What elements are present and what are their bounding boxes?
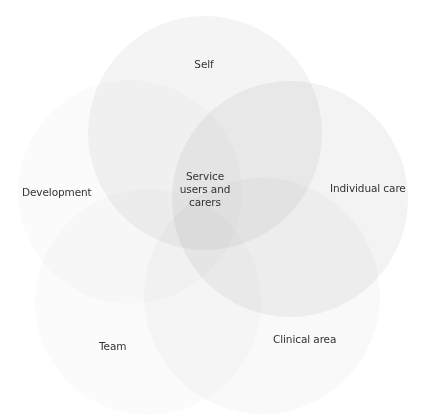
label-development: Development: [22, 186, 92, 199]
center-label: Service users and carers: [175, 170, 235, 209]
center-label-line-1: Service: [175, 170, 235, 183]
label-individual-care: Individual care: [330, 182, 412, 195]
center-label-line-2: users and: [175, 183, 235, 196]
label-self: Self: [184, 58, 224, 71]
label-team: Team: [99, 340, 129, 353]
label-clinical-area: Clinical area: [273, 333, 333, 346]
center-label-line-3: carers: [175, 196, 235, 209]
